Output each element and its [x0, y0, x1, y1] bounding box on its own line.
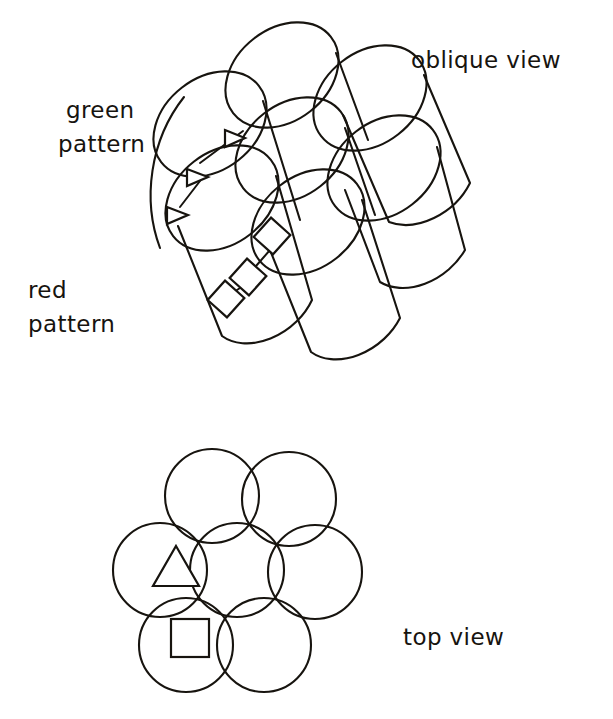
top-view-circle-nw: [113, 523, 207, 617]
top-view-circle-center: [190, 523, 284, 617]
label-oblique-view: oblique view: [411, 47, 561, 73]
label-red-pattern-line2: pattern: [28, 311, 115, 337]
label-top-view: top view: [403, 624, 504, 650]
figure-root: oblique view green pattern red pattern t…: [0, 0, 613, 719]
technical-illustration: oblique view green pattern red pattern t…: [0, 0, 613, 719]
cylinder-cap-se: [307, 94, 461, 243]
oblique-cylinder-bodies: [151, 53, 470, 359]
top-view-circle-s: [217, 598, 311, 692]
label-red-pattern-line1: red: [28, 277, 67, 303]
top-view-red-square: [171, 619, 209, 657]
top-view-circle-n: [165, 449, 259, 543]
red-pattern-diamond-1: [254, 218, 291, 255]
top-view-green-triangle: [153, 546, 199, 586]
cylinder-cap-n: [205, 1, 359, 150]
cylinder-cap-center: [215, 76, 369, 225]
top-view-group: top view: [113, 449, 504, 692]
green-pattern-triangle-3: [167, 207, 188, 224]
cylinder-cap-nw: [133, 50, 287, 199]
label-green-pattern-line1: green: [66, 97, 134, 123]
oblique-view-group: oblique view green pattern red pattern: [28, 1, 561, 360]
label-green-pattern-line2: pattern: [58, 131, 145, 157]
